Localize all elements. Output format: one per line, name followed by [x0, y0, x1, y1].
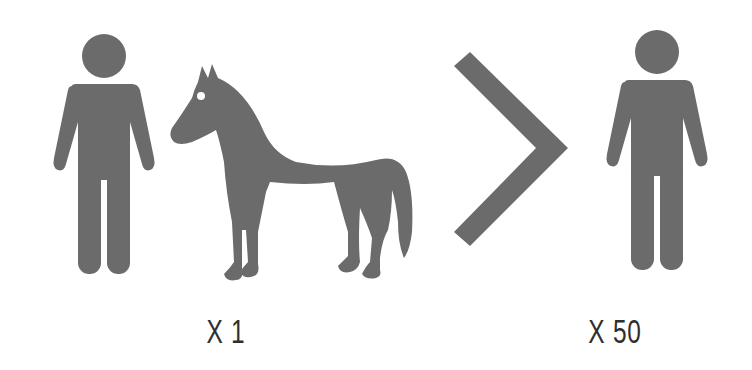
horse-icon [166, 62, 418, 288]
comparison-infographic: X 1 X 50 [0, 0, 752, 370]
right-multiplier-label: X 50 [572, 312, 658, 351]
left-multiplier-label: X 1 [183, 312, 269, 351]
person-icon [603, 26, 713, 276]
horse-eye-icon [197, 92, 205, 100]
person-icon [50, 30, 160, 280]
chevron-right-icon [448, 48, 573, 253]
